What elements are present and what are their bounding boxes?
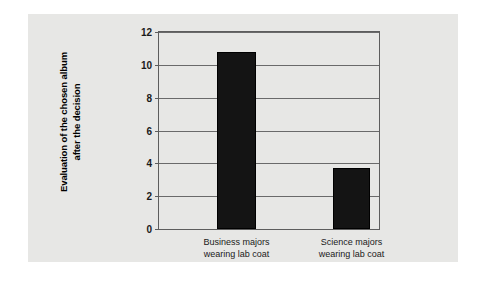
y-tick-label-8: 8 bbox=[146, 92, 152, 103]
bar-business-majors bbox=[217, 52, 256, 229]
y-tick-label-10: 10 bbox=[141, 59, 152, 70]
x-tick-label-business-majors-line-2: wearing lab coat bbox=[203, 249, 269, 261]
y-axis-title-line-1: Evaluation of the chosen album bbox=[57, 22, 70, 222]
x-tick-label-business-majors: Business majors wearing lab coat bbox=[203, 237, 269, 260]
tick-mark-0 bbox=[155, 229, 159, 230]
figure-panel: Evaluation of the chosen album after the… bbox=[28, 14, 458, 262]
plot-area: 12 10 8 6 4 2 0 Business majors wearing … bbox=[158, 31, 380, 230]
x-tick-label-business-majors-line-1: Business majors bbox=[203, 237, 269, 249]
y-tick-label-2: 2 bbox=[146, 191, 152, 202]
y-tick-label-0: 0 bbox=[146, 224, 152, 235]
tick-mark-8 bbox=[155, 98, 159, 99]
gridline-12 bbox=[159, 32, 379, 33]
y-axis-title-line-2: after the decision bbox=[70, 22, 83, 222]
tick-mark-12 bbox=[155, 32, 159, 33]
tick-mark-6 bbox=[155, 131, 159, 132]
gridline-6 bbox=[159, 131, 379, 132]
tick-mark-10 bbox=[155, 65, 159, 66]
tick-mark-2 bbox=[155, 196, 159, 197]
x-tick-label-science-majors-line-1: Science majors bbox=[319, 237, 385, 249]
gridline-10 bbox=[159, 65, 379, 66]
gridline-4 bbox=[159, 163, 379, 164]
y-tick-label-4: 4 bbox=[146, 158, 152, 169]
tick-mark-4 bbox=[155, 163, 159, 164]
y-tick-label-6: 6 bbox=[146, 125, 152, 136]
x-tick-label-science-majors: Science majors wearing lab coat bbox=[319, 237, 385, 260]
bar-science-majors bbox=[333, 168, 370, 229]
gridline-8 bbox=[159, 98, 379, 99]
y-tick-label-12: 12 bbox=[141, 27, 152, 38]
x-tick-label-science-majors-line-2: wearing lab coat bbox=[319, 249, 385, 261]
y-axis-title: Evaluation of the chosen album after the… bbox=[57, 22, 83, 222]
